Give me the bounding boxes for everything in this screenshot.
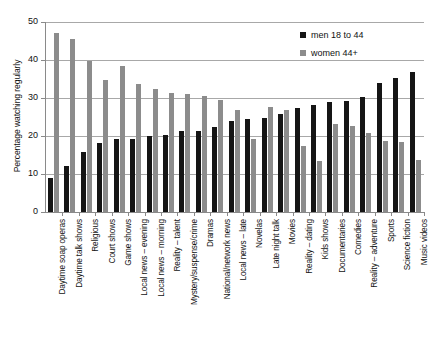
gray-square-swatch-icon (300, 50, 306, 56)
bar-group (128, 22, 144, 212)
bar-men (295, 108, 300, 212)
x-tick-mark (424, 212, 425, 216)
bar-women (301, 146, 306, 212)
bar-men (327, 102, 332, 212)
x-axis-label: Documentaries (338, 219, 349, 339)
x-axis-label: Movies (288, 219, 299, 339)
y-tick-label-0: 0 (12, 207, 38, 216)
bar-women (218, 100, 223, 212)
bar-women (333, 124, 338, 212)
bar-group (227, 22, 243, 212)
x-tick-mark (210, 212, 211, 216)
bar-women (251, 139, 256, 212)
bar-men (360, 97, 365, 212)
x-axis-label: Court shows (108, 219, 119, 339)
y-tick-label-30: 30 (12, 93, 38, 102)
black-square-swatch-icon (300, 32, 306, 38)
x-tick-mark (342, 212, 343, 216)
x-axis-label: National/network news (223, 219, 234, 339)
y-axis-title-text: Percentage watching regularly (12, 60, 22, 173)
legend-label-women: women 44+ (311, 48, 358, 58)
bar-women (120, 66, 125, 212)
bar-men (64, 166, 69, 212)
bar-men (212, 127, 217, 213)
bar-women (317, 161, 322, 212)
bar-men (97, 143, 102, 212)
bar-women (366, 133, 371, 212)
bar-chart: Percentage watching regularly 0102030405… (0, 0, 428, 339)
bar-group (145, 22, 161, 212)
x-axis-label: Daytime soap operas (58, 219, 69, 339)
y-tick-label-40: 40 (12, 55, 38, 64)
bar-group (46, 22, 62, 212)
x-tick-mark (325, 212, 326, 216)
x-axis-label: Sports (387, 219, 398, 339)
x-axis-label: Comedies (354, 219, 365, 339)
legend-item-men: men 18 to 44 (300, 26, 424, 44)
bar-women (103, 80, 108, 212)
x-tick-mark (391, 212, 392, 216)
x-axis-line (45, 212, 424, 213)
bar-women (202, 96, 207, 212)
bar-women (169, 93, 174, 212)
bar-group (112, 22, 128, 212)
bar-group (161, 22, 177, 212)
bar-women (399, 142, 404, 212)
x-tick-mark (128, 212, 129, 216)
bar-men (196, 131, 201, 212)
bar-women (54, 33, 59, 212)
bar-men (245, 119, 250, 212)
y-tick-label-20: 20 (12, 131, 38, 140)
bar-men (344, 101, 349, 212)
x-tick-mark (95, 212, 96, 216)
x-tick-mark (293, 212, 294, 216)
x-axis-label: Local news – morning (157, 219, 168, 339)
bar-men (278, 114, 283, 212)
x-axis-label: Local news – evening (140, 219, 151, 339)
bar-women (383, 141, 388, 212)
bar-women (136, 84, 141, 212)
bar-men (311, 105, 316, 212)
bar-group (177, 22, 193, 212)
x-axis-label: Novelas (255, 219, 266, 339)
x-tick-mark (408, 212, 409, 216)
x-axis-label: Science fiction (403, 219, 414, 339)
bar-group (260, 22, 276, 212)
x-tick-mark (375, 212, 376, 216)
bar-women (235, 110, 240, 212)
bar-women (350, 126, 355, 212)
x-axis-label: Game shows (124, 219, 135, 339)
x-axis-label: Dramas (206, 219, 217, 339)
bar-women (185, 94, 190, 212)
chart-legend: men 18 to 44 women 44+ (300, 26, 424, 62)
bar-men (410, 72, 415, 212)
x-tick-mark (62, 212, 63, 216)
bar-group (243, 22, 259, 212)
bar-women (87, 61, 92, 212)
x-axis-label: Kids shows (321, 219, 332, 339)
bar-women (284, 110, 289, 212)
x-axis-label: Reality – adventure (370, 219, 381, 339)
legend-item-women: women 44+ (300, 44, 424, 62)
x-axis-label: Music videos (420, 219, 428, 339)
x-tick-mark (161, 212, 162, 216)
bar-group (276, 22, 292, 212)
bar-men (179, 131, 184, 212)
bar-group (194, 22, 210, 212)
y-axis-title: Percentage watching regularly (8, 16, 26, 216)
bar-women (268, 107, 273, 212)
bar-men (130, 139, 135, 212)
bar-men (377, 83, 382, 212)
x-axis-label: Mystery/suspense/crime (190, 219, 201, 339)
bar-group (79, 22, 95, 212)
bar-men (81, 152, 86, 212)
bar-men (262, 118, 267, 212)
x-tick-mark (309, 212, 310, 216)
bar-men (229, 121, 234, 212)
x-axis-label: Reality – dating (305, 219, 316, 339)
x-tick-mark (145, 212, 146, 216)
x-axis-label: Local news – late (239, 219, 250, 339)
y-tick-label-50: 50 (12, 17, 38, 26)
bar-men (114, 139, 119, 212)
y-tick-label-10: 10 (12, 169, 38, 178)
